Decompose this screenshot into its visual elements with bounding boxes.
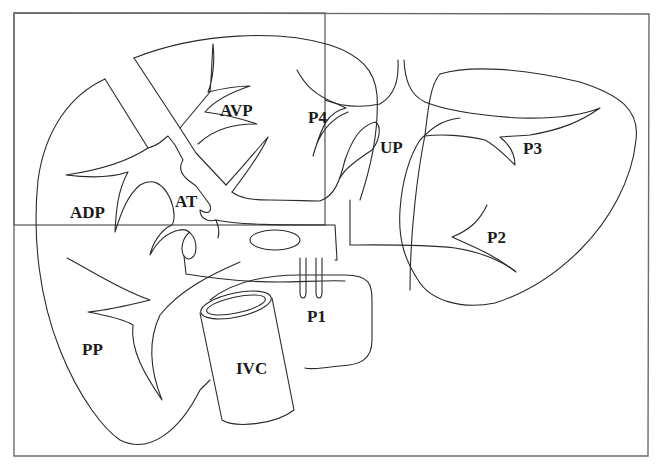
label-pp: PP xyxy=(82,340,103,359)
label-up: UP xyxy=(380,138,403,157)
label-adp: ADP xyxy=(70,203,105,222)
label-at: AT xyxy=(175,192,198,211)
label-ivc: IVC xyxy=(236,359,267,378)
label-p2: P2 xyxy=(487,228,506,247)
label-p1: P1 xyxy=(307,307,326,326)
label-p3: P3 xyxy=(523,139,542,158)
label-p4: P4 xyxy=(308,108,327,127)
label-layer: AVP P4 UP P3 ADP AT P2 P1 PP IVC xyxy=(0,0,662,465)
label-avp: AVP xyxy=(220,101,253,120)
